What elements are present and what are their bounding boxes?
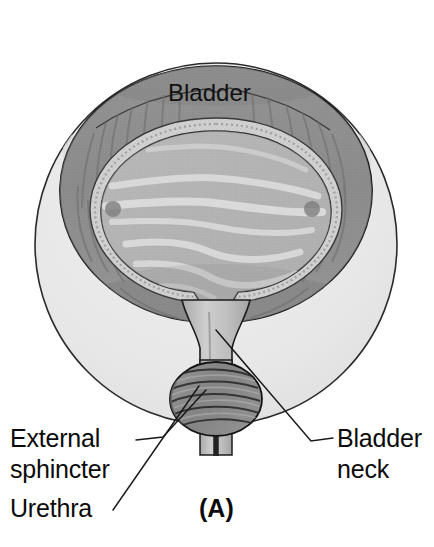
left-ureteral-orifice — [105, 201, 121, 217]
external-sphincter-collar — [170, 362, 262, 436]
label-bladder-neck-line2: neck — [337, 455, 390, 483]
figure-canvas: Bladder External sphincter Urethra Bladd… — [0, 0, 434, 547]
panel-label: (A) — [199, 494, 234, 522]
right-ureteral-orifice — [304, 201, 320, 217]
bladder-anatomy-figure: Bladder External sphincter Urethra Bladd… — [0, 0, 434, 547]
label-urethra: Urethra — [10, 494, 92, 522]
label-bladder-neck-line1: Bladder — [337, 424, 422, 452]
label-external-sphincter-line1: External — [10, 424, 100, 452]
label-external-sphincter-line2: sphincter — [10, 455, 110, 483]
label-bladder: Bladder — [168, 79, 251, 106]
